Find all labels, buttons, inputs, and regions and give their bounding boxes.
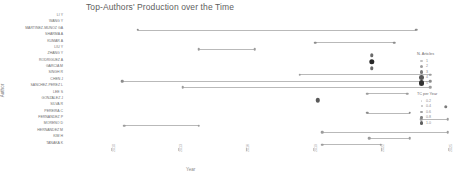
y-axis-tick-label: SANCHEZ-PEREZ L bbox=[31, 84, 63, 88]
plot-panel: LI YWANG YMARTINEZ-MUNOZ GASHARMA AKUMAR… bbox=[66, 14, 403, 148]
y-axis-tick-label: ZHANG Y bbox=[48, 52, 64, 56]
y-axis-tick-label: KUMAR A bbox=[47, 40, 63, 44]
legend-dot-icon bbox=[420, 121, 423, 124]
legend-swatch bbox=[417, 105, 426, 107]
legend-dot-icon bbox=[421, 105, 423, 107]
legend-entry-label: 4 bbox=[426, 75, 428, 79]
y-axis-tick-label: LIU Y bbox=[54, 46, 63, 50]
data-point[interactable] bbox=[444, 105, 448, 109]
production-span-line bbox=[367, 93, 407, 94]
data-point[interactable] bbox=[253, 48, 256, 51]
legend-entry-label: 0.4 bbox=[426, 104, 431, 108]
data-point[interactable] bbox=[447, 118, 450, 121]
y-axis-tick-label: GARCIA M bbox=[46, 65, 63, 69]
legend-swatch bbox=[417, 116, 426, 119]
legend-entry-label: 0.8 bbox=[426, 115, 431, 119]
production-span-line bbox=[369, 138, 409, 139]
y-axis-label: Author bbox=[0, 84, 5, 98]
data-point[interactable] bbox=[415, 29, 418, 32]
production-span-line bbox=[322, 144, 380, 145]
legend-dot-icon bbox=[421, 100, 423, 102]
chart-title-text: Top-Authors' Production over the Time bbox=[86, 2, 234, 12]
production-span-line bbox=[367, 113, 410, 114]
data-point[interactable] bbox=[121, 80, 124, 83]
legend-swatch bbox=[417, 60, 426, 62]
y-axis-tick-label: FERNANDEZ P bbox=[38, 116, 63, 120]
y-axis-tick-label: RODRIGUEZ A bbox=[39, 59, 63, 63]
legend-swatch bbox=[417, 65, 426, 68]
legend-swatch bbox=[417, 100, 426, 102]
legend-dot-icon bbox=[420, 70, 424, 74]
legend-entry: 5 bbox=[417, 80, 434, 86]
legend-entry: 1.0 bbox=[417, 120, 437, 126]
data-point[interactable] bbox=[123, 124, 126, 127]
data-point[interactable] bbox=[370, 66, 374, 70]
legend-entry-label: 0.2 bbox=[426, 99, 431, 103]
data-point[interactable] bbox=[369, 59, 374, 64]
data-point[interactable] bbox=[197, 124, 200, 127]
legend-dot-icon bbox=[419, 80, 424, 85]
data-point[interactable] bbox=[408, 112, 411, 115]
legend-n-articles: N. Articles12345 bbox=[417, 52, 434, 86]
legend-title: N. Articles bbox=[417, 52, 434, 56]
y-axis-tick-label: HERNANDEZ M bbox=[37, 129, 63, 133]
legend-entry-label: 3 bbox=[426, 70, 428, 74]
production-span-line bbox=[322, 132, 448, 133]
legend-entry-label: 0.6 bbox=[426, 110, 431, 114]
data-point[interactable] bbox=[447, 131, 450, 134]
y-axis-tick-label: LI Y bbox=[57, 14, 63, 18]
y-axis-tick-label: SHARMA A bbox=[45, 33, 63, 37]
y-axis-tick-label: GONZALEZ J bbox=[41, 97, 63, 101]
x-axis-tick-label: 2022 bbox=[382, 144, 386, 152]
legend-title: TC per Year bbox=[417, 92, 437, 96]
legend-dot-icon bbox=[419, 75, 424, 80]
y-axis-tick-label: WANG Y bbox=[49, 20, 63, 24]
production-span-line bbox=[199, 49, 255, 50]
legend-entry-label: 2 bbox=[426, 64, 428, 68]
data-point[interactable] bbox=[182, 86, 185, 89]
data-point[interactable] bbox=[406, 92, 409, 95]
x-axis-tick-label: 2013 bbox=[180, 144, 184, 152]
legend-entry-label: 1.0 bbox=[426, 121, 431, 125]
legend-dot-icon bbox=[420, 116, 423, 119]
data-point[interactable] bbox=[321, 131, 324, 134]
x-axis-tick-label: 2010 bbox=[113, 144, 117, 152]
data-point[interactable] bbox=[321, 144, 324, 147]
data-point[interactable] bbox=[370, 54, 374, 58]
y-axis-tick-label: LEE S bbox=[53, 91, 63, 95]
data-point[interactable] bbox=[366, 112, 369, 115]
data-point[interactable] bbox=[368, 137, 371, 140]
data-point[interactable] bbox=[366, 92, 369, 95]
legend-entry-label: 1 bbox=[426, 59, 428, 63]
data-point[interactable] bbox=[137, 29, 140, 32]
production-span-line bbox=[122, 81, 430, 82]
production-span-line bbox=[300, 74, 430, 75]
data-point[interactable] bbox=[429, 86, 432, 89]
data-point[interactable] bbox=[408, 137, 411, 140]
data-point[interactable] bbox=[314, 41, 317, 44]
data-point[interactable] bbox=[315, 98, 319, 102]
data-point[interactable] bbox=[393, 41, 396, 44]
x-axis-tick-label: 2025 bbox=[450, 144, 454, 152]
legend-entry-label: 5 bbox=[426, 81, 428, 85]
y-axis-tick-label: KIM H bbox=[53, 135, 63, 139]
chart-title: Top-Authors' Production over the Time bbox=[0, 2, 464, 12]
legend-swatch bbox=[417, 75, 426, 80]
y-axis-tick-label: SILVA R bbox=[50, 103, 63, 107]
data-point[interactable] bbox=[298, 73, 301, 76]
y-axis-tick-label: PEREIRA C bbox=[44, 110, 63, 114]
x-axis-label: Year bbox=[186, 167, 195, 172]
y-axis-tick-label: CHEN J bbox=[50, 78, 63, 82]
production-span-line bbox=[315, 42, 394, 43]
data-point[interactable] bbox=[197, 48, 200, 51]
legend-swatch bbox=[417, 121, 426, 124]
legend-swatch bbox=[417, 111, 426, 113]
legend-dot-icon bbox=[420, 111, 422, 113]
legend-swatch bbox=[417, 70, 426, 74]
legend-tc-per-year: TC per Year0.20.40.60.81.0 bbox=[417, 92, 437, 126]
legend-dot-icon bbox=[420, 60, 422, 62]
production-span-line bbox=[183, 87, 430, 88]
legend-swatch bbox=[417, 80, 426, 85]
chart-figure: Top-Authors' Production over the Time Au… bbox=[0, 0, 464, 178]
y-axis-tick-label: MORENO D bbox=[44, 122, 63, 126]
